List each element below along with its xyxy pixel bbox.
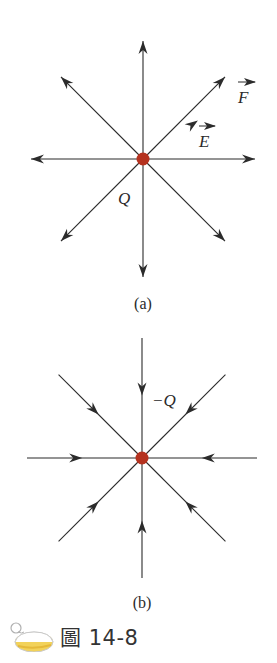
field-line	[59, 375, 142, 458]
caption-text: 圖 14-8	[60, 621, 138, 651]
panel-a-positive-charge	[31, 41, 255, 277]
field-line	[61, 77, 143, 159]
field-e-arrow-icon	[185, 121, 198, 132]
field-label-e: E	[198, 132, 210, 151]
field-line	[142, 458, 225, 541]
subcaption-a: (a)	[134, 295, 152, 313]
field-line	[142, 375, 225, 458]
field-line	[143, 159, 225, 241]
positive-charge	[137, 153, 150, 166]
electric-field-diagram: Q E F (a) −Q (b)	[0, 0, 277, 663]
field-line	[59, 458, 142, 541]
charge-label-q: Q	[118, 189, 130, 208]
figure-caption: 圖 14-8	[8, 618, 138, 654]
panel-b-negative-charge	[27, 338, 257, 578]
field-line	[61, 159, 143, 241]
negative-charge	[136, 452, 149, 465]
force-label-f: F	[237, 88, 249, 107]
field-line	[143, 77, 225, 159]
charge-label-neg-q: −Q	[152, 391, 176, 410]
subcaption-b: (b)	[133, 594, 152, 612]
flask-icon	[8, 620, 54, 652]
